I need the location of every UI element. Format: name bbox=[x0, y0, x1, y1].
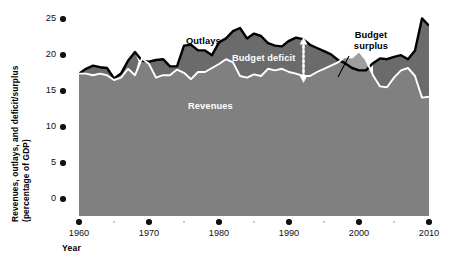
x-tick-dot-2000 bbox=[356, 219, 362, 225]
x-axis-label: Year bbox=[62, 243, 81, 253]
annotation-outlays: Outlays bbox=[186, 36, 221, 47]
annotation-budget-deficit: Budget deficit bbox=[232, 53, 295, 64]
annotation-budget-surplus-line2: surplus bbox=[340, 41, 402, 52]
x-tick-label-1990: 1990 bbox=[272, 228, 306, 238]
x-tick-label-1960: 1960 bbox=[62, 228, 96, 238]
annotation-revenues: Revenues bbox=[188, 101, 233, 112]
x-tick-dot-1970 bbox=[146, 219, 152, 225]
x-tick-dot-1960 bbox=[76, 219, 82, 225]
chart-figure: Revenues, outlays, and deficit/surplus (… bbox=[0, 0, 456, 273]
x-tick-dot-1990 bbox=[286, 219, 292, 225]
annotation-budget-surplus-line1: Budget bbox=[340, 30, 402, 41]
x-tick-label-1970: 1970 bbox=[132, 228, 166, 238]
x-tick-label-1980: 1980 bbox=[202, 228, 236, 238]
x-tick-label-2000: 2000 bbox=[342, 228, 376, 238]
x-tick-label-2010: 2010 bbox=[412, 228, 446, 238]
x-tick-dot-1980 bbox=[216, 219, 222, 225]
x-tick-dot-2010 bbox=[426, 219, 432, 225]
